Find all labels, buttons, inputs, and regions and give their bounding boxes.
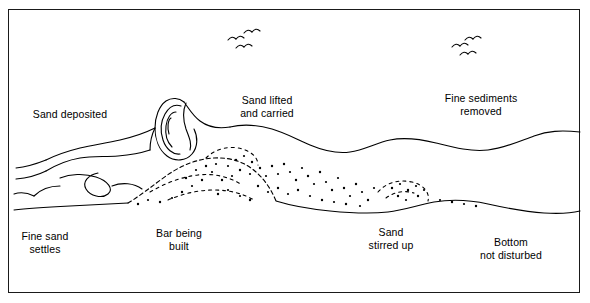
label-bar-being-built: Bar being built [134,227,224,252]
label-fine-sand-settles: Fine sand settles [0,230,90,255]
label-sand-stirred-up: Sand stirred up [346,226,436,251]
label-bottom-not-disturbed: Bottom not disturbed [455,236,567,261]
label-sand-lifted-and-carried: Sand lifted and carried [212,94,322,119]
label-fine-sediments-removed: Fine sediments removed [421,92,541,117]
label-sand-deposited: Sand deposited [0,108,140,121]
figure-canvas: Sand deposited Sand lifted and carried F… [0,0,590,303]
